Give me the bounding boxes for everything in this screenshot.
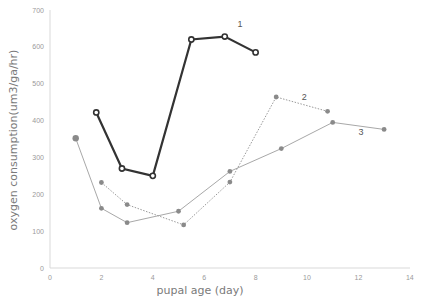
y-tick-label: 100 xyxy=(32,228,44,235)
data-point-marker xyxy=(279,146,284,151)
y-tick-label: 0 xyxy=(40,265,44,272)
data-point-marker xyxy=(189,37,194,42)
series-3: 3 xyxy=(73,120,387,225)
x-tick-label: 8 xyxy=(254,274,258,281)
y-axis-ticks: 0100200300400500600700 xyxy=(32,7,44,272)
series-line xyxy=(96,37,255,176)
x-tick-label: 14 xyxy=(406,274,414,281)
series-layer: 321 xyxy=(73,19,387,228)
series-1: 1 xyxy=(94,19,259,179)
series-2: 2 xyxy=(99,92,330,227)
y-tick-label: 400 xyxy=(32,117,44,124)
y-axis-title: oxygen consumption(um3/ga/hr) xyxy=(7,50,20,231)
series-label: 2 xyxy=(302,92,307,102)
series-label: 1 xyxy=(238,19,243,29)
series-line xyxy=(101,97,327,225)
x-tick-label: 12 xyxy=(355,274,363,281)
x-tick-label: 2 xyxy=(99,274,103,281)
data-point-marker xyxy=(325,109,330,114)
x-axis-title: pupal age (day) xyxy=(156,284,243,297)
data-point-marker xyxy=(181,222,186,227)
x-tick-label: 6 xyxy=(202,274,206,281)
data-point-marker xyxy=(99,206,104,211)
x-tick-label: 0 xyxy=(48,274,52,281)
data-point-marker xyxy=(228,169,233,174)
y-tick-label: 700 xyxy=(32,7,44,14)
data-point-marker xyxy=(222,34,227,39)
y-tick-label: 500 xyxy=(32,80,44,87)
data-point-marker xyxy=(119,166,124,171)
x-axis-ticks: 02468101214 xyxy=(48,274,414,281)
data-point-marker xyxy=(125,220,130,225)
data-point-marker xyxy=(274,95,279,100)
data-point-marker xyxy=(94,110,99,115)
data-point-marker xyxy=(253,50,258,55)
x-tick-label: 4 xyxy=(151,274,155,281)
data-point-marker xyxy=(73,135,79,141)
data-point-marker xyxy=(176,209,181,214)
series-label: 3 xyxy=(358,127,363,137)
data-point-marker xyxy=(228,180,233,185)
x-tick-label: 10 xyxy=(303,274,311,281)
data-point-marker xyxy=(330,120,335,125)
y-tick-label: 200 xyxy=(32,191,44,198)
data-point-marker xyxy=(99,180,104,185)
data-point-marker xyxy=(125,202,130,207)
line-chart: 0100200300400500600700 02468101214 321 p… xyxy=(0,0,424,305)
data-point-marker xyxy=(382,127,387,132)
data-point-marker xyxy=(150,173,155,178)
y-tick-label: 600 xyxy=(32,43,44,50)
y-tick-label: 300 xyxy=(32,154,44,161)
